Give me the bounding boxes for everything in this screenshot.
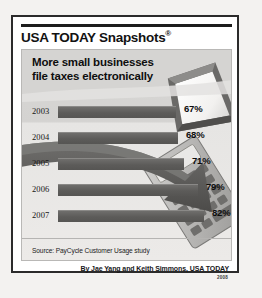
row-year-label: 2007 [22, 210, 58, 220]
row-bar-track: 68% [58, 132, 232, 143]
headline-line-2: file taxes electronically [32, 70, 182, 84]
row-year-label: 2006 [22, 184, 58, 194]
row-bar-fill [58, 132, 178, 144]
byline: By Jae Yang and Keith Simmons, USA TODAY [81, 265, 230, 272]
row-value-label: 71% [192, 155, 210, 166]
chart-row: 2005 71% [22, 150, 232, 176]
title-rule [21, 24, 232, 27]
row-value-label: 82% [212, 207, 230, 218]
row-year-label: 2005 [22, 158, 58, 168]
page-title: USA TODAY Snapshots® [21, 29, 235, 45]
row-year-label: 2004 [22, 132, 58, 142]
row-bar-fill [58, 184, 198, 196]
row-value-label: 67% [184, 103, 202, 114]
bar-chart: 2003 67% 2004 68% 2005 [22, 98, 232, 228]
chart-panel: More small businesses file taxes electro… [21, 49, 232, 261]
row-bar-track: 79% [58, 184, 232, 195]
chart-row: 2007 82% [22, 202, 232, 228]
brand-title-text: USA TODAY Snapshots [21, 30, 165, 45]
source-note: Source: PayCycle Customer Usage study [32, 247, 150, 254]
chart-row: 2004 68% [22, 124, 232, 150]
row-bar-fill [58, 106, 176, 118]
row-value-label: 68% [186, 129, 204, 140]
headline-line-1: More small businesses [32, 56, 182, 70]
row-bar-track: 67% [58, 106, 232, 117]
row-value-label: 79% [206, 181, 224, 192]
row-bar-fill [58, 158, 184, 170]
row-bar-track: 71% [58, 158, 232, 169]
row-bar-fill [58, 210, 204, 222]
registered-trademark-icon: ® [165, 29, 171, 38]
row-bar-track: 82% [58, 210, 232, 221]
credit-year: 2008 [217, 275, 228, 280]
headline: More small businesses file taxes electro… [32, 56, 182, 83]
chart-row: 2006 79% [22, 176, 232, 202]
snapshot-page: USA TODAY Snapshots® [0, 0, 262, 298]
graphic-frame: USA TODAY Snapshots® [11, 15, 239, 273]
chart-row: 2003 67% [22, 98, 232, 124]
source-separator [22, 238, 231, 239]
row-year-label: 2003 [22, 106, 58, 116]
